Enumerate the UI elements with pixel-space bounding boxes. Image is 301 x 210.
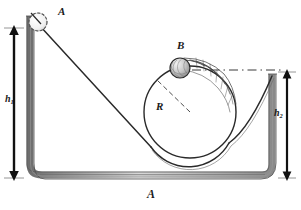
- label-h2-subscript: 2: [280, 112, 283, 119]
- label-h1-subscript: 1: [11, 98, 14, 105]
- label-ball-b: B: [177, 40, 184, 51]
- diagram-canvas: A B R h1 h2 A: [0, 0, 301, 210]
- track-secondary-line: [152, 78, 274, 170]
- h2-arrowhead-bottom: [283, 172, 292, 182]
- h1-arrowhead-top: [9, 25, 19, 35]
- figure-caption: A: [147, 188, 155, 200]
- diagram-vector-layer: [0, 0, 301, 210]
- incline-ramp: [40, 26, 151, 147]
- h1-arrowhead-bottom: [9, 171, 19, 181]
- track-path: [40, 26, 274, 170]
- label-height-h1: h1: [5, 94, 14, 105]
- rail-outer-edge: [34, 16, 276, 179]
- label-height-h2: h2: [274, 108, 283, 119]
- frame-rail: [26, 16, 277, 179]
- ball-a: [29, 13, 47, 31]
- trail-segment-4: [203, 64, 225, 84]
- trail-hatch-marks: [196, 58, 232, 105]
- rail-mid-line: [31, 18, 273, 176]
- h2-arrowhead-top: [283, 69, 292, 79]
- rail-body: [30, 16, 272, 175]
- label-radius: R: [156, 101, 163, 112]
- height-h2-arrow: [278, 69, 296, 181]
- ball-b: [170, 58, 190, 78]
- trail-envelope-inner: [182, 70, 230, 112]
- label-ball-a: A: [58, 6, 65, 17]
- loop-bottom-arc: [151, 143, 229, 167]
